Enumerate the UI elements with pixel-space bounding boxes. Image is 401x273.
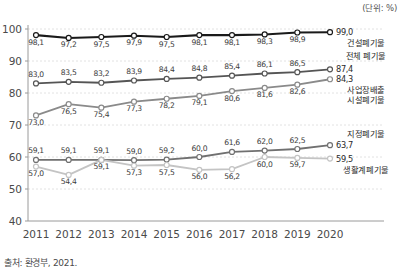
x-axis-tick: 2015 <box>153 228 180 240</box>
data-point-marker <box>34 157 39 162</box>
data-point-label: 83,9 <box>126 67 142 76</box>
x-axis-tick: 2012 <box>55 228 82 240</box>
data-point-label: 81,6 <box>257 90 273 99</box>
x-axis-tick: 2011 <box>23 228 50 240</box>
series-end-value-construction: 99,0 <box>336 27 353 37</box>
data-point-label: 59,7 <box>289 160 305 169</box>
y-axis-tick: 80 <box>9 87 22 99</box>
waste-recycling-rate-chart: (단위: %) 405060708090100 2011201220132014… <box>0 0 401 273</box>
y-axis-tick: 100 <box>2 23 22 35</box>
series-end-value-designated: 63,7 <box>336 140 353 150</box>
series-label-construction: 건설폐기물 <box>347 38 385 48</box>
data-point-label: 98,1 <box>28 38 44 47</box>
data-point-label: 59,0 <box>126 147 142 156</box>
data-point-label: 56,0 <box>191 172 207 181</box>
data-point-marker <box>164 76 169 81</box>
data-point-label: 86,5 <box>289 59 305 68</box>
data-point-label: 98,9 <box>289 35 305 44</box>
data-point-label: 73,0 <box>28 118 44 127</box>
x-axis-tick: 2019 <box>284 228 311 240</box>
data-point-label: 97,5 <box>93 40 109 49</box>
data-point-label: 98,3 <box>257 37 273 46</box>
data-point-label: 85,4 <box>224 62 240 71</box>
data-point-label: 59,1 <box>93 162 109 171</box>
series-line <box>36 79 330 115</box>
data-point-marker <box>164 157 169 162</box>
data-point-marker <box>262 148 267 153</box>
data-point-label: 98,1 <box>224 38 240 47</box>
data-point-label: 61,6 <box>224 138 240 147</box>
data-point-marker <box>132 78 137 83</box>
data-point-marker <box>99 80 104 85</box>
data-point-label: 84,8 <box>191 64 207 73</box>
data-point-marker <box>262 71 267 76</box>
series-label-designated: 지정폐기물 <box>347 129 385 139</box>
data-point-label: 59,1 <box>61 146 77 155</box>
y-axis-tick: 90 <box>9 55 22 67</box>
series-end-value-household: 59,5 <box>336 154 353 164</box>
chart-plot-area: 405060708090100 201120122013201420152016… <box>0 0 401 273</box>
data-point-marker <box>132 158 137 163</box>
data-point-label: 62,0 <box>257 137 273 146</box>
data-point-label: 59,1 <box>28 146 44 155</box>
data-point-label: 57,3 <box>126 168 142 177</box>
data-point-label: 97,9 <box>126 38 142 47</box>
y-axis-tick: 40 <box>9 215 22 227</box>
data-point-label: 76,5 <box>61 107 77 116</box>
data-point-label: 75,4 <box>93 110 109 119</box>
data-point-marker <box>295 70 300 75</box>
data-point-marker <box>197 75 202 80</box>
data-point-label: 80,6 <box>224 94 240 103</box>
x-axis-tick: 2013 <box>88 228 115 240</box>
x-axis-tick-labels: 2011201220132014201520162017201820192020 <box>23 228 344 240</box>
data-point-marker <box>66 79 71 84</box>
x-axis-tick: 2020 <box>317 228 344 240</box>
data-point-marker <box>66 157 71 162</box>
data-point-label: 57,0 <box>28 169 44 178</box>
series-line <box>36 69 330 83</box>
data-point-label: 98,1 <box>191 38 207 47</box>
data-point-label: 60,0 <box>257 160 273 169</box>
data-point-marker <box>328 143 333 148</box>
data-point-label: 57,5 <box>159 168 175 177</box>
data-point-marker <box>34 81 39 86</box>
data-point-label: 62,5 <box>289 136 305 145</box>
data-point-label: 79,1 <box>191 98 207 107</box>
series-label-household: 생활계폐기물 <box>343 165 389 175</box>
data-point-marker <box>328 67 333 72</box>
gridlines <box>25 29 384 221</box>
data-point-label: 83,5 <box>61 68 77 77</box>
data-point-label: 54,4 <box>61 177 77 186</box>
series-end-value-total: 87,4 <box>336 64 353 74</box>
data-point-label: 78,2 <box>159 101 175 110</box>
series-line <box>36 32 330 38</box>
series-legend-labels: 99,0건설폐기물전체 폐기물87,484,3사업장배출시설폐기물지정폐기물63… <box>336 27 389 174</box>
y-axis-tick-labels: 405060708090100 <box>2 23 22 227</box>
series-label-industrial-line1: 사업장배출 <box>347 85 385 95</box>
series-lines <box>36 32 330 175</box>
source-note: 출처: 환경부, 2021. <box>4 256 77 269</box>
data-point-label: 83,2 <box>93 69 109 78</box>
data-point-label: 97,5 <box>159 40 175 49</box>
data-point-label: 83,0 <box>28 70 44 79</box>
series-markers <box>34 30 333 178</box>
data-point-marker <box>328 156 333 161</box>
y-axis-tick: 60 <box>9 151 22 163</box>
data-point-label: 56,2 <box>224 172 240 181</box>
data-point-label: 86,1 <box>257 60 273 69</box>
y-axis-tick: 50 <box>9 183 22 195</box>
x-axis-tick: 2018 <box>251 228 278 240</box>
data-point-label: 82,6 <box>289 87 305 96</box>
x-axis-tick: 2014 <box>121 228 148 240</box>
data-point-marker <box>328 30 333 35</box>
data-point-label: 84,4 <box>159 65 175 74</box>
data-point-marker <box>230 73 235 78</box>
series-label-total: 전체 폐기물 <box>346 51 387 61</box>
data-point-marker <box>230 149 235 154</box>
data-point-label: 97,2 <box>61 40 77 49</box>
y-axis-tick: 70 <box>9 119 22 131</box>
data-point-marker <box>295 147 300 152</box>
data-point-label: 59,2 <box>159 146 175 155</box>
data-point-label: 59,1 <box>93 146 109 155</box>
data-point-label: 60,0 <box>191 144 207 153</box>
